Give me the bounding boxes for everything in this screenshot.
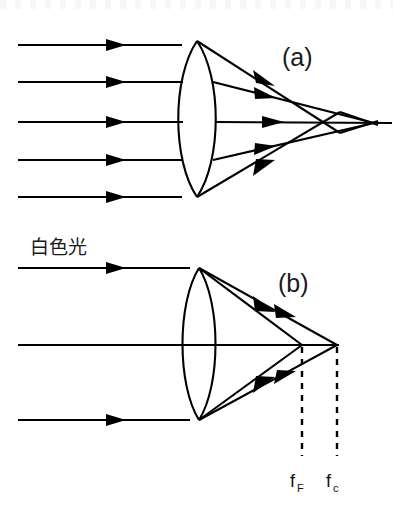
arrowhead-out-a-5 xyxy=(253,159,275,176)
lens-a-left-surface xyxy=(178,41,197,197)
lens-a xyxy=(178,41,216,197)
panel-b-incoming-rays xyxy=(18,262,302,426)
white-light-label: 白色光 xyxy=(30,236,87,258)
panel-label-b: (b) xyxy=(278,269,309,297)
focal-label-fF-base: f xyxy=(290,471,296,491)
lens-a-right-surface xyxy=(197,41,216,197)
arrowhead-in-a-2 xyxy=(106,76,126,88)
focal-label-fc-base: f xyxy=(326,471,332,491)
arrowhead-in-b-3 xyxy=(106,414,126,426)
arrowhead-in-a-5 xyxy=(106,191,126,203)
refracted-ray-a-axis xyxy=(216,122,392,123)
panel-b-group: (b) xyxy=(18,262,339,456)
panel-a-group: (a) xyxy=(18,39,392,203)
refracted-ray-b-top-c xyxy=(199,268,337,345)
arrowhead-in-a-1 xyxy=(106,39,126,51)
figure-root: (a) xyxy=(0,0,393,518)
focal-label-fF: f F xyxy=(290,471,304,494)
arrowhead-out-a-axis xyxy=(262,116,284,128)
panel-label-a: (a) xyxy=(282,43,313,71)
arrowhead-b-bottom-c xyxy=(274,370,296,384)
refracted-ray-a-4 xyxy=(213,123,374,160)
focal-label-fc: f c xyxy=(326,471,339,494)
lens-b-left-surface xyxy=(183,268,200,420)
arrowhead-b-top-c xyxy=(274,304,296,318)
arrowhead-in-b-1 xyxy=(106,262,126,274)
refracted-ray-b-bottom-c xyxy=(199,345,337,420)
lens-b xyxy=(183,268,216,420)
panel-a-incoming-rays xyxy=(18,39,183,203)
focal-label-fF-sub: F xyxy=(297,482,304,494)
arrowhead-out-a-1 xyxy=(253,70,275,86)
ray-diagram-svg: (a) xyxy=(0,0,393,518)
refracted-ray-a-2 xyxy=(213,82,374,123)
arrowhead-in-a-3 xyxy=(106,116,126,128)
panel-b-refracted-rays xyxy=(199,268,339,420)
lens-b-right-surface xyxy=(199,268,216,420)
arrowhead-in-a-4 xyxy=(106,154,126,166)
focal-label-fc-sub: c xyxy=(333,482,339,494)
